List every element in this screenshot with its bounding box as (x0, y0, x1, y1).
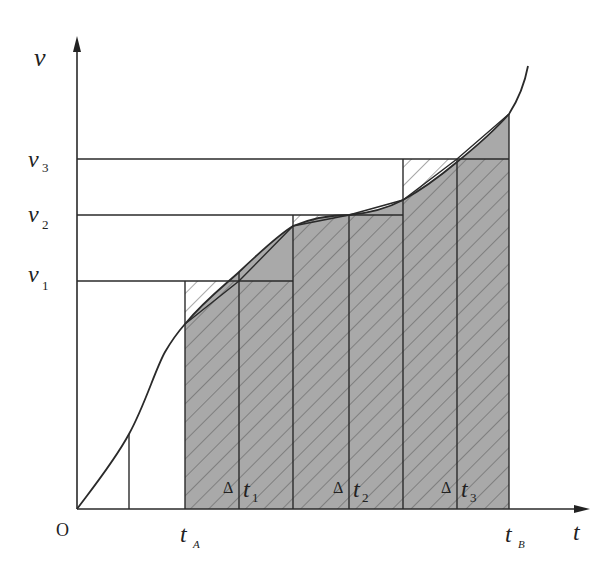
svg-text:3: 3 (42, 160, 49, 175)
svg-text:2: 2 (362, 490, 369, 505)
x-axis-arrow-icon (574, 505, 590, 513)
x-axis-label: t (573, 519, 581, 545)
v2-label: v 2 (28, 201, 49, 232)
hatched-rectangles (185, 159, 509, 509)
v1-label: v 1 (28, 261, 49, 293)
svg-text:A: A (192, 538, 200, 550)
tA-label: t A (180, 521, 200, 550)
svg-text:3: 3 (470, 490, 477, 505)
svg-text:t: t (180, 521, 188, 547)
svg-text:v: v (28, 201, 39, 227)
svg-text:1: 1 (252, 490, 259, 505)
tB-label: t B (505, 521, 525, 550)
svg-text:B: B (518, 538, 525, 550)
svg-text:Δ: Δ (333, 479, 343, 496)
svg-text:2: 2 (42, 217, 49, 232)
svg-text:Δ: Δ (223, 479, 233, 496)
origin-label: O (56, 520, 69, 540)
vt-diagram: v O t v 3 v 2 v 1 t A t B Δ t 1 Δ t 2 Δ … (0, 0, 614, 574)
svg-text:1: 1 (42, 278, 49, 293)
svg-text:v: v (28, 261, 39, 287)
svg-text:Δ: Δ (441, 479, 451, 496)
svg-text:t: t (505, 521, 513, 547)
v3-label: v 3 (28, 146, 49, 175)
y-axis-arrow-icon (73, 36, 81, 52)
svg-text:v: v (28, 146, 39, 172)
y-axis-label: v (34, 43, 46, 72)
